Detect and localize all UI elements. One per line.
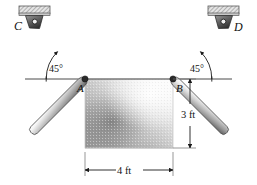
ceiling-bracket-icon-left bbox=[19, 6, 50, 29]
statics-figure: C D A B 45° 45° 3 ft 4 ft bbox=[0, 0, 257, 185]
pin-joint-icon-d bbox=[221, 19, 226, 24]
label-joint-a: A bbox=[76, 82, 84, 94]
label-support-d: D bbox=[233, 20, 243, 34]
dimension-label-width: 4 ft bbox=[117, 165, 131, 176]
pin-joint-icon-c bbox=[32, 19, 37, 24]
label-support-c: C bbox=[14, 19, 23, 33]
figure-canvas: C D A B 45° 45° 3 ft 4 ft bbox=[0, 0, 257, 185]
label-joint-b: B bbox=[176, 82, 183, 94]
suspended-block bbox=[85, 79, 173, 148]
dimension-label-height: 3 ft bbox=[181, 109, 195, 120]
angle-label-left: 45° bbox=[49, 63, 63, 74]
angle-label-right: 45° bbox=[190, 63, 204, 74]
